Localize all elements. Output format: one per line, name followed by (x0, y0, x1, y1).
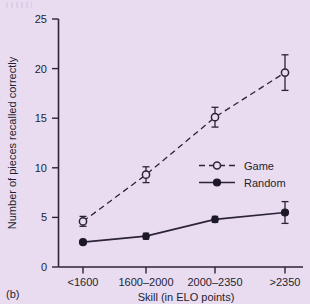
line-chart: 0 5 10 15 20 25 <1600 1600–2000 2000–235… (0, 0, 310, 304)
y-tick-label-0: 0 (41, 261, 47, 273)
legend-item-random: Random (199, 177, 286, 189)
x-tick-label-0: <1600 (68, 276, 99, 288)
legend-label-game: Game (244, 160, 274, 172)
scan-artifact (6, 2, 32, 8)
y-tick-label-25: 25 (35, 13, 47, 25)
x-tick-label-1: 1600–2000 (118, 276, 173, 288)
panel-label: (b) (6, 288, 19, 300)
data-point-game-0 (79, 218, 86, 225)
axes (59, 19, 304, 267)
legend-marker-random-icon (214, 179, 221, 186)
series-game (79, 55, 288, 227)
series-random (80, 202, 289, 246)
legend-label-random: Random (244, 177, 286, 189)
chart-legend: Game Random (199, 160, 286, 189)
y-tick-label-20: 20 (35, 63, 47, 75)
y-tick-label-5: 5 (41, 211, 47, 223)
data-point-random-0 (80, 239, 87, 246)
legend-item-game: Game (199, 160, 274, 172)
x-tick-label-2: 2000–2350 (187, 276, 242, 288)
data-point-random-3 (282, 209, 289, 216)
legend-marker-game-icon (214, 162, 221, 169)
y-tick-label-15: 15 (35, 112, 47, 124)
x-axis-title: Skill (in ELO points) (138, 291, 235, 303)
y-tick-labels: 0 5 10 15 20 25 (35, 13, 47, 273)
data-point-game-3 (281, 69, 288, 76)
y-tick-label-10: 10 (35, 162, 47, 174)
series-random-line (83, 213, 285, 243)
x-tick-label-3: >2350 (270, 276, 301, 288)
data-point-random-2 (212, 216, 218, 222)
y-ticks (52, 19, 59, 267)
x-tick-labels: <1600 1600–2000 2000–2350 >2350 (68, 276, 301, 288)
data-point-game-1 (142, 171, 149, 178)
series-random-errorbars (83, 202, 289, 245)
x-ticks (83, 267, 285, 274)
figure-panel-b: 0 5 10 15 20 25 <1600 1600–2000 2000–235… (0, 0, 310, 304)
data-point-game-2 (211, 114, 218, 121)
series-game-line (83, 73, 285, 222)
data-point-random-1 (143, 233, 149, 239)
y-axis-title: Number of pieces recalled correctly (6, 56, 18, 229)
